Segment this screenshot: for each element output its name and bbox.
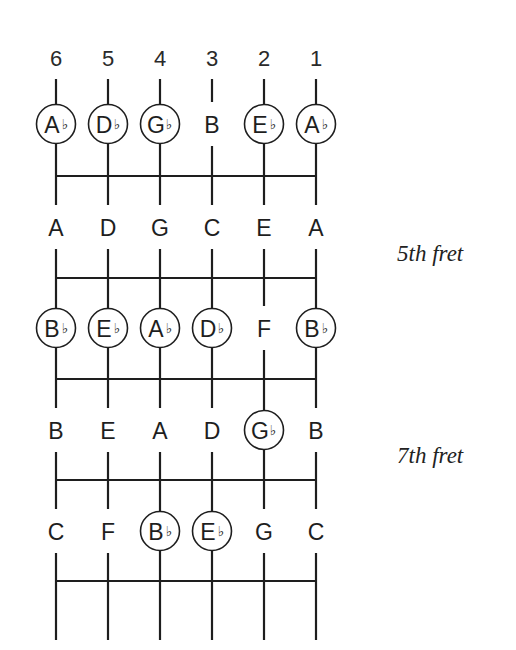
note-f: F: [101, 519, 115, 545]
flat-icon: ♭: [322, 116, 329, 132]
note-letter: A: [304, 112, 320, 138]
note-g: G: [151, 215, 169, 241]
note-a-flat: A♭: [297, 105, 336, 144]
note-letter: C: [204, 215, 221, 241]
note-b-flat: B♭: [141, 512, 180, 551]
fret-label-7th: 7th fret: [397, 443, 463, 469]
note-g-flat: G♭: [245, 411, 284, 450]
note-a: A: [48, 215, 64, 241]
string-number-label: 1: [310, 46, 322, 71]
note-b: B: [204, 112, 219, 138]
note-letter: B: [48, 418, 63, 444]
note-a: A: [152, 418, 168, 444]
note-d-flat: D♭: [193, 309, 232, 348]
note-c: C: [48, 519, 65, 545]
note-e: E: [100, 418, 115, 444]
note-b-flat: B♭: [37, 309, 76, 348]
note-letter: B: [148, 519, 163, 545]
note-d: D: [100, 215, 117, 241]
flat-icon: ♭: [114, 320, 121, 336]
note-letter: E: [256, 215, 271, 241]
string-number-label: 5: [102, 46, 114, 71]
note-a: A: [308, 215, 324, 241]
string-number-row: 654321: [50, 46, 322, 71]
note-letter: B: [304, 316, 319, 342]
note-e: E: [256, 215, 271, 241]
string-number-label: 3: [206, 46, 218, 71]
flat-icon: ♭: [218, 523, 225, 539]
note-letter: F: [101, 519, 115, 545]
note-d: D: [204, 418, 221, 444]
fretboard-diagram: 654321 A♭D♭G♭BE♭A♭ADGCEAB♭E♭A♭D♭FB♭BEADG…: [0, 0, 516, 650]
note-letter: G: [251, 418, 269, 444]
note-letter: B: [204, 112, 219, 138]
note-letter: A: [44, 112, 60, 138]
note-letter: E: [252, 112, 267, 138]
note-a-flat: A♭: [37, 105, 76, 144]
note-letter: B: [308, 418, 323, 444]
string-number-label: 4: [154, 46, 166, 71]
note-letter: D: [204, 418, 221, 444]
flat-icon: ♭: [218, 320, 225, 336]
note-e-flat: E♭: [245, 105, 284, 144]
note-letter: G: [151, 215, 169, 241]
note-g: G: [255, 519, 273, 545]
flat-icon: ♭: [270, 422, 277, 438]
note-a-flat: A♭: [141, 309, 180, 348]
fretboard-lines: [56, 79, 316, 640]
note-d-flat: D♭: [89, 105, 128, 144]
note-letter: D: [96, 112, 113, 138]
flat-icon: ♭: [114, 116, 121, 132]
note-b-flat: B♭: [297, 309, 336, 348]
note-letter: G: [255, 519, 273, 545]
flat-icon: ♭: [270, 116, 277, 132]
note-letter: C: [48, 519, 65, 545]
flat-icon: ♭: [62, 320, 69, 336]
note-b: B: [308, 418, 323, 444]
note-letter: A: [308, 215, 324, 241]
flat-icon: ♭: [166, 116, 173, 132]
note-letter: G: [147, 112, 165, 138]
note-c: C: [204, 215, 221, 241]
flat-icon: ♭: [166, 523, 173, 539]
note-letter: A: [48, 215, 64, 241]
note-f: F: [257, 316, 271, 342]
flat-icon: ♭: [62, 116, 69, 132]
note-letter: E: [100, 418, 115, 444]
note-letter: A: [148, 316, 164, 342]
note-e-flat: E♭: [193, 512, 232, 551]
note-e-flat: E♭: [89, 309, 128, 348]
note-letter: D: [200, 316, 217, 342]
note-g-flat: G♭: [141, 105, 180, 144]
fret-label-5th: 5th fret: [397, 241, 463, 267]
flat-icon: ♭: [166, 320, 173, 336]
note-letter: A: [152, 418, 168, 444]
flat-icon: ♭: [322, 320, 329, 336]
note-letter: D: [100, 215, 117, 241]
note-letter: B: [44, 316, 59, 342]
note-c: C: [308, 519, 325, 545]
note-letter: F: [257, 316, 271, 342]
string-number-label: 2: [258, 46, 270, 71]
note-letter: E: [96, 316, 111, 342]
note-letter: C: [308, 519, 325, 545]
note-grid: A♭D♭G♭BE♭A♭ADGCEAB♭E♭A♭D♭FB♭BEADG♭BCFB♭E…: [37, 105, 336, 551]
string-number-label: 6: [50, 46, 62, 71]
note-b: B: [48, 418, 63, 444]
note-letter: E: [200, 519, 215, 545]
